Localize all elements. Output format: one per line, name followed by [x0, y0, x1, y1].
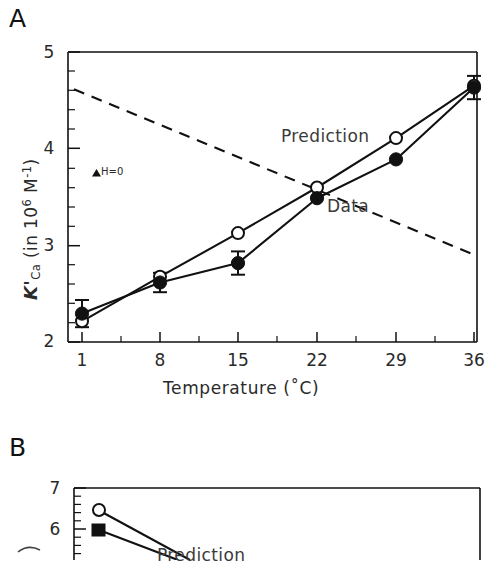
panel-b-ytick-6: 6	[44, 519, 66, 539]
panel-b-prediction-label: Prediction	[157, 545, 245, 565]
panel-b-prediction-marker	[93, 504, 105, 516]
panel-b-y-minor-ticks	[74, 496, 81, 553]
panel-b-ytick-7: 7	[44, 478, 66, 498]
panel-b-y-axis-label-partial	[18, 547, 40, 552]
panel-b-data-marker	[92, 524, 105, 536]
panel-b-axes-frame	[74, 488, 480, 560]
panel-b-y-ticks	[74, 488, 86, 529]
